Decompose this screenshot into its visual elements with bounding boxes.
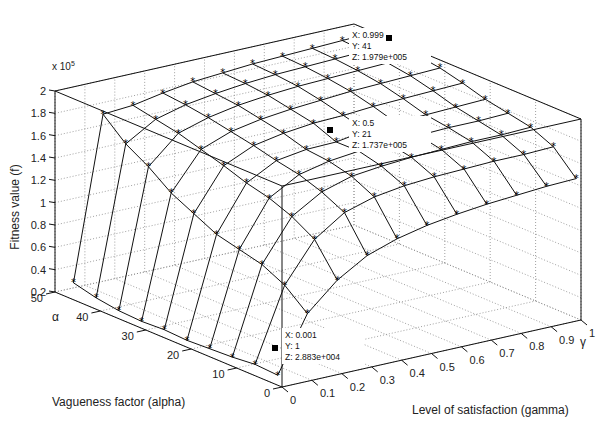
mesh-line bbox=[449, 121, 479, 128]
z-tick bbox=[49, 135, 55, 136]
floor-gridline bbox=[294, 238, 521, 333]
asterisk-marker: * bbox=[333, 53, 338, 64]
mesh-line bbox=[487, 195, 517, 204]
data-tip-marker bbox=[327, 127, 333, 133]
mesh-line bbox=[464, 161, 494, 169]
asterisk-marker: * bbox=[371, 101, 376, 112]
alpha-tick bbox=[182, 349, 191, 351]
mesh-line bbox=[305, 59, 335, 67]
wall-gridline bbox=[55, 136, 354, 203]
alpha-tick-label: 0 bbox=[264, 387, 270, 399]
mesh-line bbox=[380, 76, 410, 84]
asterisk-marker: * bbox=[460, 78, 465, 89]
data-tip-y: Y: 21 bbox=[352, 129, 372, 139]
gamma-symbol: γ bbox=[580, 335, 586, 349]
gamma-tick-label: 0.6 bbox=[469, 354, 484, 366]
asterisk-marker: * bbox=[453, 102, 458, 113]
asterisk-marker: * bbox=[250, 58, 255, 69]
asterisk-marker: * bbox=[491, 156, 496, 167]
asterisk-marker: * bbox=[514, 190, 519, 201]
asterisk-marker: * bbox=[162, 324, 167, 335]
asterisk-marker: * bbox=[253, 359, 258, 370]
z-exponent: 5 bbox=[71, 60, 75, 67]
alpha-tick-label: 40 bbox=[76, 311, 88, 323]
asterisk-marker: * bbox=[183, 99, 188, 110]
mesh-line bbox=[208, 105, 238, 117]
asterisk-marker: * bbox=[289, 211, 294, 222]
z-tick-label: 0.4 bbox=[31, 264, 46, 276]
asterisk-marker: * bbox=[431, 85, 436, 96]
asterisk-marker: * bbox=[94, 292, 99, 303]
mesh-line bbox=[201, 132, 231, 150]
asterisk-marker: * bbox=[146, 161, 151, 172]
alpha-tick-label: 30 bbox=[122, 330, 134, 342]
asterisk-marker: * bbox=[335, 275, 340, 286]
mesh-line bbox=[298, 79, 328, 87]
data-tip-marker bbox=[386, 35, 392, 41]
mesh-line bbox=[307, 280, 337, 314]
mesh-line bbox=[275, 67, 305, 75]
asterisk-marker: * bbox=[288, 104, 293, 115]
mesh-line bbox=[433, 83, 463, 91]
mesh-line bbox=[478, 113, 508, 121]
mesh-line bbox=[261, 109, 291, 119]
asterisk-marker: * bbox=[282, 280, 287, 291]
gamma-tick bbox=[342, 374, 348, 379]
floor-gridline bbox=[237, 301, 536, 368]
asterisk-marker: * bbox=[372, 191, 377, 202]
mesh-line bbox=[269, 175, 299, 198]
asterisk-marker: * bbox=[244, 177, 249, 188]
asterisk-marker: * bbox=[266, 90, 271, 101]
z-tick-label: 1.2 bbox=[31, 174, 46, 186]
data-tip-z: Z: 2.883e+004 bbox=[285, 352, 340, 362]
asterisk-marker: * bbox=[424, 220, 429, 231]
asterisk-marker: * bbox=[184, 335, 189, 346]
z-axis-label: Fitness value (f) bbox=[8, 164, 22, 249]
surface-mesh: ****************************************… bbox=[71, 27, 579, 380]
mesh-line bbox=[223, 64, 253, 73]
box-edge bbox=[55, 91, 282, 186]
alpha-tick-label: 10 bbox=[212, 368, 224, 380]
asterisk-marker: * bbox=[213, 88, 218, 99]
asterisk-marker: * bbox=[258, 114, 263, 125]
gamma-tick bbox=[372, 367, 378, 372]
alpha-symbol: α bbox=[52, 310, 59, 324]
mesh-line bbox=[148, 133, 178, 167]
mesh-line bbox=[231, 119, 261, 131]
mesh-line bbox=[210, 249, 240, 348]
asterisk-marker: * bbox=[439, 144, 444, 155]
asterisk-marker: * bbox=[230, 352, 235, 363]
asterisk-marker: * bbox=[237, 244, 242, 255]
asterisk-marker: * bbox=[303, 61, 308, 72]
mesh-line bbox=[351, 84, 381, 92]
floor-gridline bbox=[146, 263, 445, 330]
mesh-line bbox=[245, 75, 275, 84]
gamma-tick-label: 0.1 bbox=[320, 387, 335, 399]
z-tick bbox=[49, 112, 55, 113]
mesh-line bbox=[457, 204, 487, 214]
asterisk-marker: * bbox=[275, 370, 280, 381]
mesh-line bbox=[313, 115, 343, 123]
asterisk-marker: * bbox=[395, 233, 400, 244]
asterisk-marker: * bbox=[176, 128, 181, 139]
asterisk-marker: * bbox=[243, 78, 248, 89]
mesh-line bbox=[315, 213, 345, 240]
mesh-line bbox=[373, 99, 403, 107]
gamma-tick bbox=[551, 327, 557, 332]
asterisk-marker: * bbox=[206, 112, 211, 123]
mesh-line bbox=[434, 169, 464, 177]
asterisk-marker: * bbox=[378, 78, 383, 89]
asterisk-marker: * bbox=[341, 110, 346, 121]
mesh-line bbox=[291, 100, 321, 109]
gamma-tick bbox=[282, 387, 288, 392]
asterisk-marker: * bbox=[71, 277, 76, 288]
asterisk-marker: * bbox=[326, 156, 331, 167]
asterisk-marker: * bbox=[483, 94, 488, 105]
asterisk-marker: * bbox=[160, 88, 165, 99]
alpha-tick bbox=[228, 368, 237, 370]
mesh-line bbox=[441, 142, 471, 150]
asterisk-marker: * bbox=[319, 186, 324, 197]
gamma-tick bbox=[491, 340, 497, 345]
asterisk-marker: * bbox=[462, 164, 467, 175]
asterisk-marker: * bbox=[123, 138, 128, 149]
